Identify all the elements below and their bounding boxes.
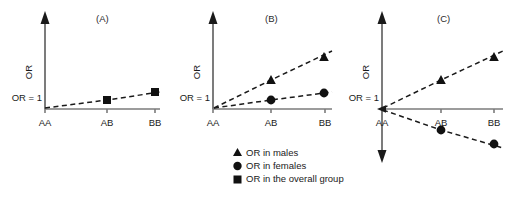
panel-b-marker-circle-bb [320, 89, 329, 98]
legend-label-females: OR in females [246, 160, 306, 171]
panel-b-marker-triangle-ab [266, 75, 276, 84]
panel-a-tick-label-bb: BB [149, 117, 162, 128]
panel-b-tick-label-bb: BB [319, 117, 332, 128]
panel-c-y-axis-arrowhead-down [378, 150, 387, 163]
panel-b: (B) OR OR = 1 AA AB BB [180, 11, 332, 128]
panel-c-baseline-label: OR = 1 [349, 92, 379, 103]
panel-b-tick-label-aa: AA [207, 117, 220, 128]
panel-c-title: (C) [437, 13, 450, 24]
panel-a-tick-label-aa: AA [39, 117, 52, 128]
panel-c-y-axis-label: OR [360, 65, 371, 79]
panel-c-tick-label-ab: AB [435, 117, 448, 128]
panel-b-marker-triangle-bb [319, 52, 329, 61]
panel-a-y-axis-arrowhead [41, 11, 50, 24]
panel-b-y-axis-label: OR [191, 65, 202, 79]
panel-a-y-axis-label: OR [23, 65, 34, 79]
legend-label-overall: OR in the overall group [246, 173, 344, 184]
legend-label-males: OR in males [246, 147, 299, 158]
panel-b-title: (B) [265, 13, 278, 24]
panel-a: (A) OR OR = 1 AA AB BB [12, 11, 162, 128]
panel-c: (C) OR OR = 1 AA AB BB [349, 11, 503, 163]
panel-b-y-axis-arrowhead [209, 11, 218, 24]
panel-a-marker-square-bb [151, 88, 159, 96]
legend: OR in males OR in females OR in the over… [233, 147, 344, 184]
legend-circle-icon [233, 162, 241, 170]
panel-a-baseline-label: OR = 1 [12, 92, 42, 103]
panel-a-tick-label-ab: AB [101, 117, 114, 128]
panel-c-tick-label-aa: AA [376, 117, 389, 128]
panel-b-baseline-label: OR = 1 [180, 92, 210, 103]
legend-triangle-icon [233, 148, 242, 156]
panel-b-tick-label-ab: AB [265, 117, 278, 128]
panel-a-marker-square-ab [103, 96, 111, 104]
panel-b-marker-circle-ab [267, 96, 276, 105]
panel-c-marker-circle-bb [490, 140, 499, 149]
panel-c-marker-triangle-ab [436, 75, 446, 84]
panel-a-title: (A) [96, 13, 109, 24]
panel-a-series-overall [45, 92, 160, 108]
legend-square-icon [234, 176, 242, 184]
panel-c-y-axis-arrowhead-up [378, 11, 387, 24]
figure-svg: (A) OR OR = 1 AA AB BB [0, 0, 510, 201]
panel-c-tick-label-bb: BB [488, 117, 501, 128]
figure-container: (A) OR OR = 1 AA AB BB [0, 0, 510, 201]
